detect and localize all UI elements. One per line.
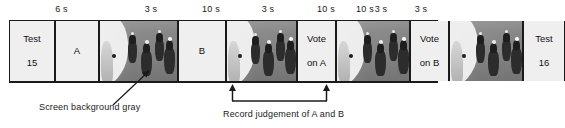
panel-stimulus-b-label: B (178, 21, 226, 81)
rider-cap-icon (267, 40, 271, 44)
panel-vote-on-b-line-1: Vote (420, 34, 439, 44)
rail-post-icon (112, 54, 116, 58)
record-note-caption: Record judgement of A and B (223, 109, 344, 119)
horse-icon (389, 39, 398, 61)
rider-icon (129, 35, 136, 44)
rider-cap-icon (254, 33, 257, 36)
rider-icon (400, 40, 407, 50)
rider-icon (503, 33, 510, 42)
rider-icon (513, 40, 520, 50)
panel-vote-on-a-line-1: Vote (307, 34, 326, 44)
rider-cap-icon (131, 32, 134, 35)
video-frame-b-1 (227, 21, 296, 81)
horse-icon (476, 41, 485, 63)
horse-icon (285, 47, 296, 74)
rider-cap-icon (145, 40, 149, 44)
panel-vote-on-a-line-2: on A (307, 58, 326, 68)
panel-test-16: Test 16 (523, 21, 565, 81)
rider-cap-icon (366, 32, 369, 35)
track-rail-shadow (101, 41, 113, 81)
panel-vote-on-a: Vote on A (297, 21, 336, 81)
horse-icon (263, 50, 274, 76)
panel-test-15-line-1: Test (23, 34, 40, 44)
horse-icon (502, 39, 511, 61)
background-note-caption: Screen background gray (39, 102, 140, 112)
record-bracket-right-arrowhead-icon (323, 84, 330, 91)
horse-icon (251, 42, 260, 64)
video-frame-a-1 (100, 21, 177, 81)
rider-icon (287, 40, 294, 50)
rider-icon (143, 43, 150, 53)
rider-icon (277, 33, 284, 42)
rail-post-icon (349, 54, 353, 58)
horse-icon (511, 47, 522, 74)
track-rail-shadow (228, 41, 240, 81)
rider-icon (364, 35, 371, 44)
duration-label-4: 3 s (246, 4, 290, 14)
duration-label-2: 3 s (127, 4, 175, 14)
rider-icon (477, 35, 484, 44)
video-frame-b-2 (450, 21, 522, 81)
duration-label-3: 10 s (176, 4, 246, 14)
horse-icon (164, 47, 175, 74)
video-frame-a-2 (337, 21, 409, 81)
panel-video-b-2 (449, 21, 523, 81)
horse-icon (128, 41, 137, 63)
rider-cap-icon (379, 40, 383, 44)
rider-cap-icon (515, 37, 519, 41)
duration-label-8: 3 s (404, 4, 438, 14)
rail-post-icon (238, 54, 242, 58)
horse-icon (488, 50, 499, 76)
panel-video-a-1 (99, 21, 178, 81)
panel-test-15-line-2: 15 (27, 58, 38, 68)
horse-icon (363, 41, 372, 63)
horse-icon (155, 39, 164, 61)
panel-test-15: Test 15 (9, 21, 55, 81)
panel-stimulus-b-text: B (199, 46, 205, 56)
duration-label-7: 10 s (330, 4, 400, 14)
panel-vote-on-b-line-2: on B (420, 58, 440, 68)
panel-video-a-2 (336, 21, 410, 81)
duration-label-1: 6 s (9, 4, 114, 14)
rider-cap-icon (279, 30, 282, 33)
track-rail-shadow (451, 41, 463, 81)
rider-icon (265, 43, 272, 53)
rider-icon (490, 43, 497, 53)
rider-icon (252, 36, 259, 45)
panel-test-16-line-2: 16 (539, 58, 550, 68)
horse-icon (141, 50, 152, 76)
rail-post-icon (462, 54, 466, 58)
rider-cap-icon (505, 30, 508, 33)
record-bracket-left-arrowhead-icon (229, 84, 236, 91)
rider-cap-icon (492, 40, 496, 44)
rider-icon (390, 33, 397, 42)
panel-stimulus-a-label: A (55, 21, 99, 81)
rider-cap-icon (168, 37, 172, 41)
panel-test-16-line-1: Test (535, 34, 552, 44)
track-rail-shadow (338, 41, 350, 81)
rider-cap-icon (289, 37, 293, 41)
film-strip-baseline (9, 81, 438, 83)
rider-cap-icon (392, 30, 395, 33)
rider-cap-icon (158, 30, 161, 33)
rider-icon (377, 43, 384, 53)
rider-cap-icon (402, 37, 406, 41)
rider-icon (166, 40, 173, 50)
horse-icon (398, 47, 409, 74)
horse-icon (276, 39, 285, 61)
panel-vote-on-b: Vote on B (410, 21, 449, 81)
panel-video-b-1 (226, 21, 297, 81)
panel-stimulus-a-text: A (74, 46, 80, 56)
rider-cap-icon (479, 32, 482, 35)
horse-icon (375, 50, 386, 76)
rider-icon (156, 33, 163, 42)
